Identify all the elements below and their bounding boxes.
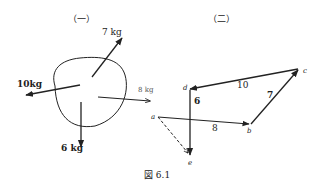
point-label-e: e — [188, 159, 192, 167]
figure-caption: 図 6.1 — [144, 168, 170, 181]
segment-label-6: 6 — [194, 96, 200, 106]
point-label-c: c — [303, 67, 307, 75]
segment-label-10: 10 — [237, 80, 248, 90]
point-label-d: d — [183, 84, 187, 92]
force-label-6kg: 6 kg — [61, 143, 83, 153]
segment-a-e-dashed — [158, 117, 188, 153]
force-label-8kg: 8 kg — [138, 86, 153, 94]
segment-a-b — [158, 117, 249, 124]
point-label-b: b — [247, 127, 251, 135]
point-label-a: a — [151, 113, 155, 121]
panel1-title: （一） — [68, 12, 95, 25]
rigid-body-outline — [54, 57, 127, 126]
panel1-diagram — [26, 38, 150, 147]
segment-b-c — [251, 70, 298, 124]
force-label-10kg: 10kg — [17, 79, 42, 89]
panel2-force-polygon — [158, 69, 298, 155]
force-label-7kg: 7 kg — [102, 27, 122, 37]
panel2-title: （二） — [208, 12, 235, 25]
segment-label-7: 7 — [267, 90, 273, 100]
segment-label-8: 8 — [212, 123, 218, 133]
